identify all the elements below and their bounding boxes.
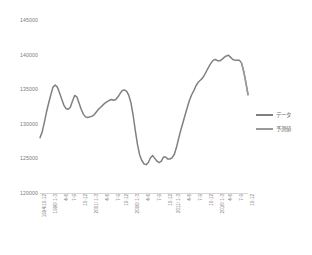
- legend-label-0: データ: [276, 111, 291, 119]
- legend-label-1: 予測値: [276, 125, 291, 133]
- x-tick-label: 4-6: [64, 194, 69, 201]
- x-tick-label: 4-6: [228, 194, 233, 201]
- x-tick-label: 4-6: [105, 194, 110, 201]
- x-tick-label: 1994/10-12: [42, 194, 47, 217]
- x-tick-label: 7-9: [116, 194, 121, 201]
- y-tick-label: 145000: [4, 17, 38, 23]
- x-tick-label: 2006/ 1-3: [135, 194, 140, 213]
- x-axis-tick-labels: 1994/10-121996/ 1-34-67-910-122001/ 1-34…: [40, 194, 248, 252]
- legend-swatch-0: [256, 114, 273, 116]
- y-tick-label: 130000: [4, 121, 38, 127]
- y-tick-label: 135000: [4, 86, 38, 92]
- x-tick-label: 1996/ 1-3: [53, 194, 58, 213]
- x-tick-label: 2001/ 1-3: [94, 194, 99, 213]
- legend-swatch-1: [256, 128, 273, 130]
- x-tick-label: 7-9: [157, 194, 162, 201]
- x-tick-label: 2016/ 1-3: [220, 194, 225, 213]
- x-tick-label: 10-12: [83, 194, 88, 206]
- x-tick-label: 7-9: [239, 194, 244, 201]
- legend-item-1[interactable]: 予測値: [256, 122, 310, 136]
- x-tick-label: 7-9: [198, 194, 203, 201]
- series-plot: [40, 20, 248, 193]
- series-line-1: [242, 63, 249, 95]
- legend-item-0[interactable]: データ: [256, 108, 310, 122]
- x-tick-label: 4-6: [187, 194, 192, 201]
- y-tick-label: 125000: [4, 155, 38, 161]
- y-tick-label: 120000: [4, 190, 38, 196]
- x-tick-label: 10-12: [250, 194, 255, 206]
- x-tick-label: 10-12: [209, 194, 214, 206]
- x-tick-label: 7-9: [72, 194, 77, 201]
- x-tick-label: 2011/ 1-3: [176, 194, 181, 213]
- x-tick-label: 10-12: [168, 194, 173, 206]
- x-tick-label: 4-6: [146, 194, 151, 201]
- y-tick-label: 140000: [4, 52, 38, 58]
- chart-legend: データ 予測値: [256, 108, 310, 136]
- series-line-0: [40, 55, 248, 164]
- y-axis-tick-labels: 145000140000135000130000125000120000: [0, 0, 38, 255]
- x-tick-label: 10-12: [124, 194, 129, 206]
- chart-container: 145000140000135000130000125000120000 199…: [0, 0, 312, 255]
